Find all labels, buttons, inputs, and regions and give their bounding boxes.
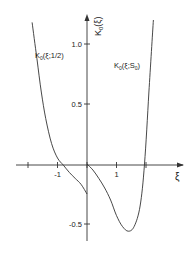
series-label-half: K0(ξ;1/2) bbox=[35, 51, 64, 61]
y-tick-label: -0.5 bbox=[69, 220, 82, 229]
chart: -11 ξ 1.00.5-0.5 K0(ξ) K0(ξ;1/2) K0(ξ;S0… bbox=[0, 0, 194, 257]
x-tick-label: 1 bbox=[114, 170, 118, 179]
series-labels: K0(ξ;1/2) K0(ξ;S0) bbox=[35, 51, 141, 71]
series-label-s0: K0(ξ;S0) bbox=[114, 61, 141, 71]
curve-k0-s0 bbox=[87, 20, 153, 231]
y-tick-label: 0.5 bbox=[72, 100, 82, 109]
y-axis: 1.00.5-0.5 K0(ξ) bbox=[69, 14, 104, 241]
x-tick-label: -1 bbox=[54, 170, 61, 179]
y-axis-label: K0(ξ) bbox=[93, 17, 104, 36]
x-axis-arrow-icon bbox=[177, 163, 184, 168]
y-tick-label: 1.0 bbox=[72, 40, 82, 49]
x-axis-label: ξ bbox=[175, 171, 180, 183]
y-axis-arrow-icon bbox=[85, 14, 90, 21]
